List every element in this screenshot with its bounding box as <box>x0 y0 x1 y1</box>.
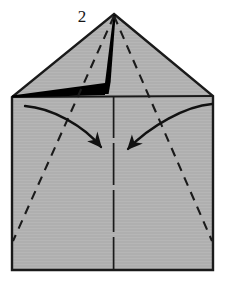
origami-figure: 2 <box>0 0 227 285</box>
origami-diagram-canvas <box>0 0 227 285</box>
step-number-label: 2 <box>72 7 92 27</box>
